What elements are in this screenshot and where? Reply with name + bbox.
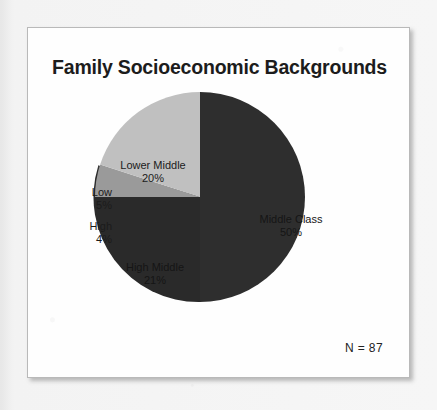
- pie-label-lower-middle-pct: 20%: [88, 172, 218, 185]
- pie-label-high: High 4%: [46, 220, 112, 247]
- pie-label-middle-class-pct: 50%: [226, 226, 356, 239]
- pie-label-low-name: Low: [92, 186, 112, 198]
- pie-label-low-pct: 5%: [46, 199, 112, 212]
- pie-label-high-middle-name: High Middle: [126, 261, 184, 273]
- pie-label-middle-class-name: Middle Class: [260, 213, 323, 225]
- sample-size-note: N = 87: [345, 341, 383, 355]
- pie-label-lower-middle: Lower Middle 20%: [88, 159, 218, 186]
- pie-label-high-middle: High Middle 21%: [90, 261, 220, 288]
- pie-label-high-pct: 4%: [46, 233, 112, 246]
- slide-panel: Family Socioeconomic Backgrounds Lower M…: [27, 27, 410, 378]
- pie-label-lower-middle-name: Lower Middle: [120, 159, 185, 171]
- pie-label-middle-class: Middle Class 50%: [226, 213, 356, 240]
- pie-chart: Lower Middle 20% Low 5% High 4% High Mid…: [28, 28, 411, 379]
- pie-label-high-middle-pct: 21%: [90, 274, 220, 287]
- pie-label-low: Low 5%: [46, 186, 112, 213]
- pie-label-high-name: High: [89, 220, 112, 232]
